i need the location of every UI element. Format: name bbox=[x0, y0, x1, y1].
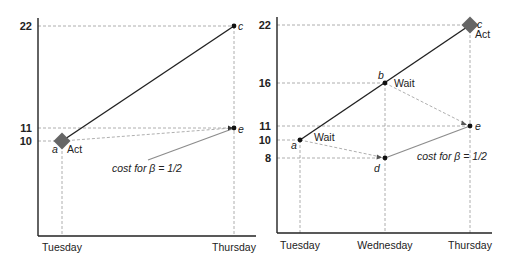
right-xtick-tuesday: Tuesday bbox=[280, 239, 321, 251]
right-point-a bbox=[298, 138, 303, 143]
left-ytick-10: 10 bbox=[20, 135, 32, 147]
right-ytick-22: 22 bbox=[259, 19, 271, 31]
right-point-e bbox=[468, 124, 473, 129]
left-gridlines bbox=[38, 26, 234, 236]
right-label-a: a bbox=[291, 139, 297, 151]
left-ytick-11: 11 bbox=[20, 122, 32, 134]
right-label-e: e bbox=[475, 120, 481, 132]
right-cost-annotation: cost for β = 1/2 bbox=[417, 150, 487, 162]
right-xtick-wednesday: Wednesday bbox=[357, 239, 413, 251]
left-label-c: c bbox=[238, 20, 244, 32]
diagram-canvas: 22 11 10 Tuesday Thursday a Act c e cost… bbox=[0, 0, 513, 261]
left-point-e bbox=[232, 126, 237, 131]
left-cost-annotation: cost for β = 1/2 bbox=[112, 162, 182, 174]
left-panel: 22 11 10 Tuesday Thursday a Act c e cost… bbox=[20, 18, 257, 253]
right-point-b bbox=[383, 81, 388, 86]
right-panel: 22 16 11 10 8 Tuesday Wednesday Thursday… bbox=[259, 17, 493, 251]
left-label-e: e bbox=[238, 123, 244, 135]
right-arrowhead-e-icon bbox=[461, 121, 467, 126]
right-label-b: b bbox=[378, 69, 384, 81]
right-gridlines bbox=[277, 25, 470, 233]
right-xtick-thursday: Thursday bbox=[448, 239, 493, 251]
right-ytick-8: 8 bbox=[265, 152, 271, 164]
left-point-c bbox=[232, 24, 237, 29]
right-label-c-act: Act bbox=[475, 28, 490, 40]
right-arrowhead-d-icon bbox=[377, 155, 383, 160]
right-ytick-16: 16 bbox=[259, 77, 271, 89]
left-label-a: a bbox=[52, 143, 58, 155]
right-ytick-10: 10 bbox=[259, 134, 271, 146]
left-ytick-22: 22 bbox=[20, 20, 32, 32]
right-label-d: d bbox=[374, 162, 381, 174]
left-xtick-thursday: Thursday bbox=[212, 241, 257, 253]
right-point-d bbox=[383, 156, 388, 161]
left-line-a-c bbox=[62, 26, 234, 141]
right-label-b-wait: Wait bbox=[394, 77, 415, 89]
left-label-a-act: Act bbox=[67, 143, 82, 155]
left-cost-pointer bbox=[148, 129, 232, 160]
right-ytick-11: 11 bbox=[259, 120, 271, 132]
left-xtick-tuesday: Tuesday bbox=[42, 241, 83, 253]
right-label-a-wait: Wait bbox=[314, 131, 335, 143]
